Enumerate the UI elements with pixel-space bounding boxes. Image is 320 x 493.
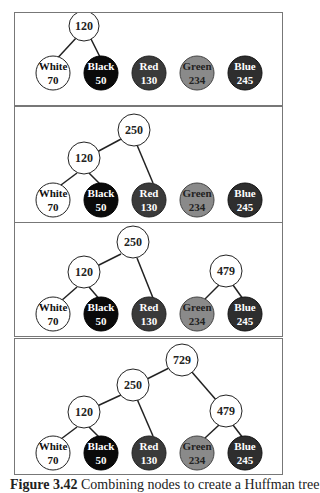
svg-text:479: 479 [217,404,235,418]
svg-text:70: 70 [48,201,60,213]
node-120: 120 [69,13,99,41]
tree-step-1: 120 White 70 Black 50 Red 130 Green 234 … [15,13,284,107]
svg-text:250: 250 [125,123,143,137]
leaf-white: White 70 [36,297,70,331]
svg-text:Black: Black [88,187,116,199]
node-250: 250 [117,226,149,258]
svg-text:70: 70 [48,315,60,327]
edge [61,173,77,185]
svg-text:245: 245 [237,454,254,466]
edge [95,138,123,153]
svg-text:245: 245 [237,74,254,86]
leaf-green: Green 234 [180,183,214,217]
edge [137,399,153,436]
svg-text:234: 234 [189,315,206,327]
leaf-blue: Blue 245 [228,183,262,217]
svg-text:50: 50 [96,74,108,86]
leaf-white: White 70 [36,56,70,90]
node-250: 250 [117,369,149,401]
leaf-white: White 70 [36,183,70,217]
node-479: 479 [210,395,242,427]
leaf-black: Black 50 [84,56,118,90]
svg-text:Green: Green [182,60,211,72]
tree-step-4: 729 250 120 479 White 70 Black 50 Red 13… [15,339,284,476]
panel-step-3: 250 120 479 White 70 Black 50 Red 130 Gr… [14,222,283,337]
edge [205,425,219,438]
svg-text:120: 120 [75,265,93,279]
svg-text:White: White [39,187,68,199]
node-479: 479 [210,255,242,287]
leaf-blue: Blue 245 [228,297,262,331]
svg-text:Red: Red [140,60,159,72]
svg-text:Black: Black [88,301,116,313]
node-729: 729 [166,344,198,376]
svg-text:130: 130 [141,454,158,466]
svg-text:Red: Red [140,440,159,452]
leaf-green: Green 234 [180,297,214,331]
svg-text:234: 234 [189,74,206,86]
svg-text:Green: Green [182,440,211,452]
leaf-red: Red 130 [132,183,166,217]
leaf-red: Red 130 [132,297,166,331]
svg-text:Blue: Blue [234,301,256,313]
edge [61,427,77,439]
edge [145,367,171,380]
svg-text:479: 479 [217,264,235,278]
leaf-red: Red 130 [132,56,166,90]
svg-text:120: 120 [75,151,93,165]
tree-step-2: 250 120 White 70 Black 50 Red 130 Green … [15,107,284,224]
svg-text:245: 245 [237,315,254,327]
edge [137,145,153,183]
leaf-green: Green 234 [180,436,214,470]
svg-text:Blue: Blue [234,187,256,199]
leaf-white: White 70 [36,436,70,470]
svg-text:50: 50 [96,315,108,327]
node-120: 120 [68,142,100,174]
edge [137,258,153,298]
panel-step-4: 729 250 120 479 White 70 Black 50 Red 13… [14,338,283,475]
svg-text:White: White [39,60,68,72]
svg-text:130: 130 [141,315,158,327]
panel-step-2: 250 120 White 70 Black 50 Red 130 Green … [14,106,283,223]
svg-text:250: 250 [124,378,142,392]
panel-step-1: 120 White 70 Black 50 Red 130 Green 234 … [14,12,283,106]
svg-text:Blue: Blue [234,440,256,452]
leaf-black: Black 50 [84,183,118,217]
svg-text:Green: Green [182,301,211,313]
svg-text:250: 250 [124,235,142,249]
leaf-blue: Blue 245 [228,56,262,90]
node-250: 250 [118,114,150,146]
leaf-black: Black 50 [84,436,118,470]
node-120: 120 [68,396,100,428]
leaf-blue: Blue 245 [228,436,262,470]
figure-caption: Figure 3.42 Combining nodes to create a … [10,477,319,493]
svg-text:White: White [39,301,68,313]
svg-text:729: 729 [173,353,191,367]
edge [61,287,77,301]
svg-text:245: 245 [237,201,254,213]
svg-text:Red: Red [140,301,159,313]
svg-text:Green: Green [182,187,211,199]
svg-text:130: 130 [141,201,158,213]
figure-label: Figure 3.42 [10,477,77,492]
svg-text:120: 120 [75,19,93,33]
svg-text:234: 234 [189,454,206,466]
edge [191,371,217,401]
svg-text:Blue: Blue [234,60,256,72]
leaf-green: Green 234 [180,56,214,90]
svg-text:Black: Black [88,60,116,72]
svg-text:70: 70 [48,454,60,466]
svg-text:White: White [39,440,68,452]
leaf-black: Black 50 [84,297,118,331]
figure-caption-text: Combining nodes to create a Huffman tree [81,477,319,492]
svg-text:130: 130 [141,74,158,86]
svg-text:Red: Red [140,187,159,199]
svg-text:50: 50 [96,201,108,213]
leaf-red: Red 130 [132,436,166,470]
svg-text:Black: Black [88,440,116,452]
node-120: 120 [68,256,100,288]
tree-step-3: 250 120 479 White 70 Black 50 Red 130 Gr… [15,223,284,338]
svg-text:50: 50 [96,454,108,466]
edge [205,285,219,299]
svg-text:70: 70 [48,74,60,86]
